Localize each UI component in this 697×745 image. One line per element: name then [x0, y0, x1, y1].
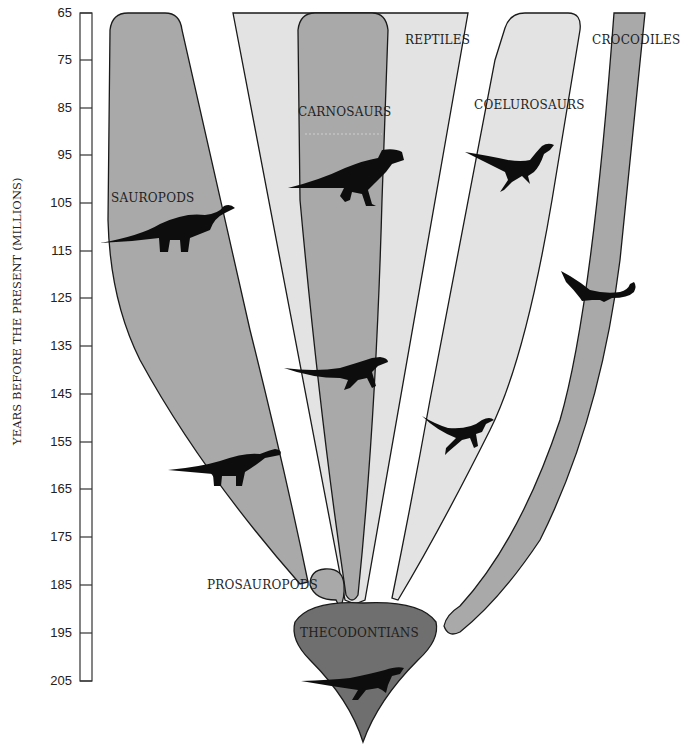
tick-label: 195 — [2, 626, 72, 640]
label-coelurosaurs: COELUROSAURS — [474, 98, 585, 112]
tick-label: 75 — [2, 53, 72, 67]
label-thecodontians: THECODONTIANS — [300, 626, 419, 640]
tick-label: 165 — [2, 482, 72, 496]
label-reptiles: REPTILES — [405, 33, 470, 47]
tick-label: 85 — [2, 101, 72, 115]
thecodontians-branch — [294, 603, 437, 742]
tick-label: 175 — [2, 530, 72, 544]
label-crocodiles: CROCODILES — [592, 33, 680, 47]
tick-label: 65 — [2, 6, 72, 20]
tick-label: 205 — [2, 674, 72, 688]
label-sauropods: SAUROPODS — [111, 191, 194, 205]
time-scale-bar — [80, 13, 92, 681]
tick-label: 185 — [2, 578, 72, 592]
label-prosauropods: PROSAUROPODS — [207, 578, 318, 592]
label-carnosaurs: CARNOSAURS — [298, 105, 391, 119]
tick-label: 95 — [2, 148, 72, 162]
y-axis-title: YEARS BEFORE THE PRESENT (MILLIONS) — [10, 177, 24, 445]
